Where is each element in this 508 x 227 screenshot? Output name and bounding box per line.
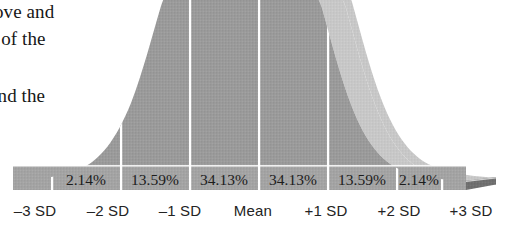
bell-curve-chart: 2.14% 13.59% 34.13% 34.13% 13.59% 2.14% … xyxy=(0,0,508,227)
axis-tick-mean: Mean xyxy=(234,202,272,219)
axis-tick-pos3-sd: +3 SD xyxy=(449,202,492,219)
body-text-line-1: ove and xyxy=(0,2,54,21)
body-text-line-2: t of the xyxy=(0,29,46,48)
axis-tick-neg3-sd: –3 SD xyxy=(14,202,57,219)
axis-tick-pos2-sd: +2 SD xyxy=(377,202,420,219)
band-strip-top-edge xyxy=(13,165,466,167)
percent-label-neg3-neg2: 2.14% xyxy=(66,171,106,188)
percent-label-pos1-pos2: 13.59% xyxy=(338,171,386,188)
axis-tick-neg2-sd: –2 SD xyxy=(87,202,130,219)
sd-axis-labels: –3 SD –2 SD –1 SD Mean +1 SD +2 SD +3 SD xyxy=(14,202,493,219)
percent-label-mean-pos1: 34.13% xyxy=(269,171,317,188)
percent-label-neg1-mean: 34.13% xyxy=(200,171,248,188)
percent-label-neg2-neg1: 13.59% xyxy=(131,171,179,188)
axis-tick-neg1-sd: –1 SD xyxy=(159,202,202,219)
percent-label-pos2-pos3: 2.14% xyxy=(399,171,439,188)
normal-distribution-figure: ove and t of the and the xyxy=(0,0,508,227)
axis-tick-pos1-sd: +1 SD xyxy=(304,202,347,219)
body-text-line-3: and the xyxy=(0,86,45,105)
